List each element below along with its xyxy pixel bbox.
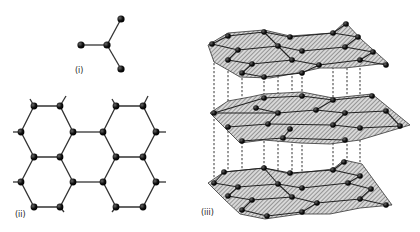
middle-layer xyxy=(210,92,410,144)
top-layer xyxy=(208,21,389,80)
panel-iii-graphite-layers xyxy=(208,21,410,219)
panel-iii-label: (iii) xyxy=(201,208,214,217)
panel-i-label: (i) xyxy=(75,66,83,75)
panel-ii-hexagonal-layer xyxy=(13,96,166,212)
bottom-layer xyxy=(208,159,392,219)
figure-canvas xyxy=(0,0,420,232)
panel-i-trigonal-carbon xyxy=(77,15,124,72)
panel-ii-label: (ii) xyxy=(15,210,26,219)
